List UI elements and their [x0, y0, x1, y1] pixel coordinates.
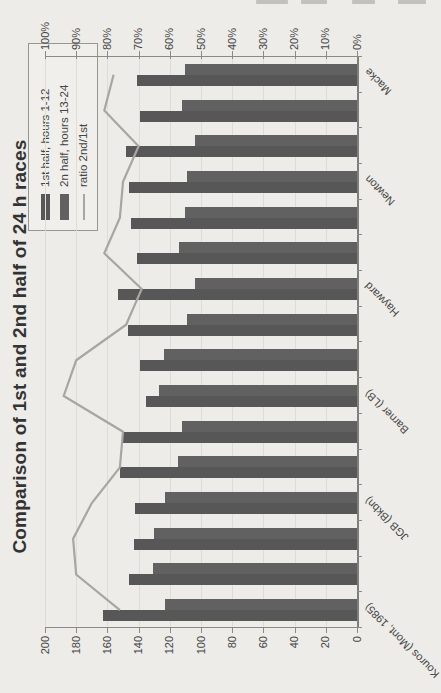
primary-axis-tick: [357, 628, 358, 633]
category-axis-tick: [357, 591, 362, 592]
category-axis-tick: [357, 270, 362, 271]
ratio-line: [0, 0, 441, 693]
category-axis-tick: [357, 56, 362, 57]
secondary-axis-tick: [139, 51, 140, 59]
secondary-axis-tick-label: 0%: [351, 34, 364, 50]
primary-axis-tick-label: 180: [70, 636, 83, 654]
category-axis-tick: [357, 413, 362, 414]
primary-axis-tick: [201, 628, 202, 633]
primary-axis-tick-label: 80: [226, 636, 239, 648]
secondary-axis-tick: [45, 51, 46, 59]
secondary-axis-tick: [170, 51, 171, 59]
scanned-page: Comparison of 1st and 2nd half of 24 h r…: [0, 0, 441, 693]
category-axis-tick: [357, 234, 362, 235]
primary-axis-tick: [107, 628, 108, 633]
category-axis-tick: [357, 520, 362, 521]
secondary-axis-tick-label: 30%: [257, 28, 270, 50]
secondary-axis-tick-label: 50%: [195, 28, 208, 50]
category-axis-tick: [357, 627, 362, 628]
category-axis-tick: [357, 163, 362, 164]
category-axis-tick: [357, 484, 362, 485]
secondary-axis-tick-label: 90%: [70, 28, 83, 50]
primary-axis-tick: [76, 628, 77, 633]
primary-axis-tick: [170, 628, 171, 633]
secondary-axis-tick: [201, 51, 202, 59]
primary-axis-tick-label: 160: [101, 636, 114, 654]
secondary-axis-tick-label: 20%: [288, 28, 301, 50]
category-axis-tick: [357, 92, 362, 93]
secondary-axis-tick-label: 40%: [226, 28, 239, 50]
secondary-axis-tick: [326, 51, 327, 59]
secondary-axis-tick: [263, 51, 264, 59]
secondary-axis-tick-label: 60%: [163, 28, 176, 50]
primary-axis-tick: [263, 628, 264, 633]
landscape-chart: Comparison of 1st and 2nd half of 24 h r…: [0, 0, 441, 693]
primary-axis-tick-label: 40: [288, 636, 301, 648]
secondary-axis-tick: [357, 51, 358, 59]
secondary-axis-tick-label: 70%: [132, 28, 145, 50]
primary-axis-tick: [139, 628, 140, 633]
scan-artifact: [256, 0, 288, 4]
primary-axis-tick-label: 200: [39, 636, 52, 654]
primary-axis-tick-label: 0: [351, 636, 364, 642]
secondary-axis-tick-label: 100%: [39, 22, 52, 50]
category-axis-tick: [357, 306, 362, 307]
secondary-axis-tick: [232, 51, 233, 59]
category-axis-tick: [357, 127, 362, 128]
scan-artifact: [352, 0, 375, 4]
primary-axis-tick: [326, 628, 327, 633]
secondary-axis-tick-label: 10%: [319, 28, 332, 50]
primary-axis-tick-label: 100: [195, 636, 208, 654]
category-axis-tick: [357, 377, 362, 378]
category-axis-tick: [357, 342, 362, 343]
category-axis-tick: [357, 199, 362, 200]
primary-axis-tick-label: 120: [163, 636, 176, 654]
primary-axis-tick: [45, 628, 46, 633]
primary-axis-tick-label: 20: [319, 636, 332, 648]
primary-axis-tick-label: 60: [257, 636, 270, 648]
secondary-axis-tick: [76, 51, 77, 59]
primary-axis-tick-label: 140: [132, 636, 145, 654]
secondary-axis-tick: [295, 51, 296, 59]
scan-artifact: [398, 0, 426, 4]
category-axis-tick: [357, 449, 362, 450]
scan-artifact: [301, 0, 327, 4]
secondary-axis-tick: [107, 51, 108, 59]
category-axis-tick: [357, 556, 362, 557]
secondary-axis-tick-label: 80%: [101, 28, 114, 50]
primary-axis-tick: [295, 628, 296, 633]
primary-axis-tick: [232, 628, 233, 633]
